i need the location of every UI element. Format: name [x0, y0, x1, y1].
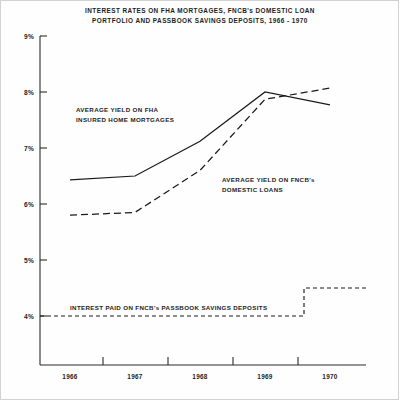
x-tick-label-1970: 1970	[322, 373, 338, 380]
x-axis-ticks	[103, 357, 298, 365]
x-axis-labels: 1966 1967 1968 1969 1970	[62, 373, 338, 380]
y-axis-ticks	[40, 36, 47, 316]
chart-svg: 9% 8% 7% 6% 5% 4% 1966 1967 1968 1969 19…	[0, 0, 400, 401]
y-tick-label-4: 4%	[24, 313, 34, 320]
y-tick-label-9: 9%	[24, 33, 34, 40]
annotation-passbook-savings: INTEREST PAID ON FNCB's PASSBOOK SAVINGS…	[70, 303, 267, 313]
x-tick-label-1966: 1966	[62, 373, 78, 380]
annotation-fha-line-1: AVERAGE YIELD ON FHA	[76, 105, 174, 115]
annotation-fha-line-2: INSURED HOME MORTGAGES	[76, 115, 174, 125]
y-tick-label-5: 5%	[24, 257, 34, 264]
annotation-fncb-line-2: DOMESTIC LOANS	[222, 185, 315, 195]
chart-plot-area: 9% 8% 7% 6% 5% 4% 1966 1967 1968 1969 19…	[0, 0, 400, 401]
annotation-fha-mortgages: AVERAGE YIELD ON FHA INSURED HOME MORTGA…	[76, 105, 174, 125]
y-axis-labels: 9% 8% 7% 6% 5% 4%	[24, 33, 34, 320]
y-tick-label-7: 7%	[24, 145, 34, 152]
y-tick-label-6: 6%	[24, 201, 34, 208]
annotation-fncb-domestic-loans: AVERAGE YIELD ON FNCB's DOMESTIC LOANS	[222, 175, 315, 195]
x-tick-label-1968: 1968	[192, 373, 208, 380]
y-tick-label-8: 8%	[24, 89, 34, 96]
annotation-passbook-line-1: INTEREST PAID ON FNCB's PASSBOOK SAVINGS…	[70, 303, 267, 313]
annotation-fncb-line-1: AVERAGE YIELD ON FNCB's	[222, 175, 315, 185]
x-tick-label-1967: 1967	[127, 373, 143, 380]
x-tick-label-1969: 1969	[257, 373, 273, 380]
